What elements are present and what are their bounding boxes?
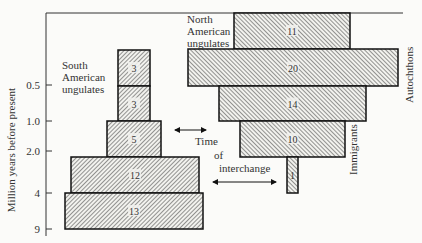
y-tick-label: 1.0 bbox=[26, 115, 40, 127]
north-american-bar: 11 bbox=[234, 13, 350, 49]
north-american-bar-value: 14 bbox=[288, 99, 298, 110]
interchange-text-of: of bbox=[214, 149, 224, 161]
south-american-bar: 3 bbox=[118, 86, 150, 121]
south-american-bar: 13 bbox=[65, 193, 203, 229]
south-american-bar: 5 bbox=[107, 121, 161, 157]
immigrants-label: Immigrants bbox=[347, 124, 359, 175]
south-american-bar-value: 3 bbox=[132, 99, 137, 110]
south-american-bar-value: 13 bbox=[129, 206, 139, 217]
y-tick-label: 4 bbox=[35, 187, 41, 199]
north-american-bar: 10 bbox=[240, 121, 345, 157]
south-american-bar-value: 5 bbox=[132, 134, 137, 145]
interchange-text-interchange: interchange bbox=[219, 162, 270, 174]
ungulate-interchange-chart: 0.51.02.049 Million years before present… bbox=[0, 0, 422, 243]
north-american-bar-value: 11 bbox=[287, 26, 297, 37]
north-american-bar: 14 bbox=[219, 86, 366, 121]
interchange-text-time: Time bbox=[195, 135, 218, 147]
north-american-bar-value: 20 bbox=[288, 63, 298, 74]
y-tick-label: 0.5 bbox=[26, 79, 40, 91]
south-american-bar: 12 bbox=[71, 157, 199, 193]
y-axis-title: Million years before present bbox=[5, 88, 17, 212]
north-american-bar-value: 10 bbox=[288, 134, 298, 145]
y-axis-ticks: 0.51.02.049 bbox=[26, 79, 52, 235]
north-american-bar-value: 1 bbox=[290, 170, 295, 181]
south-american-label: South American ungulates bbox=[62, 59, 108, 95]
y-tick-label: 9 bbox=[35, 223, 41, 235]
y-tick-label: 2.0 bbox=[26, 145, 40, 157]
north-american-bar: 1 bbox=[287, 157, 298, 193]
south-american-bar-value: 12 bbox=[130, 170, 140, 181]
south-american-bar-value: 3 bbox=[132, 63, 137, 74]
south-american-bar: 3 bbox=[118, 50, 150, 86]
north-american-bar: 20 bbox=[188, 49, 398, 86]
autochthons-label: Autochthons bbox=[403, 47, 415, 103]
